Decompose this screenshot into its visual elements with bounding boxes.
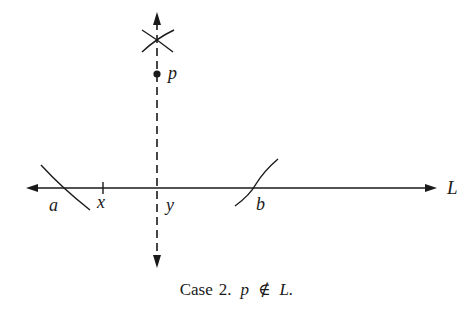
label-a: a (49, 196, 58, 214)
perpendicular-dashed-line (153, 12, 161, 268)
caption-case-word: Case (180, 280, 213, 299)
label-x: x (97, 193, 105, 211)
label-y: y (166, 196, 174, 214)
point-p (153, 70, 160, 77)
arc-intersection-mark (142, 30, 174, 52)
caption-case-number: 2. (219, 280, 232, 299)
arrow-up-icon (153, 12, 161, 25)
caption-line: L. (280, 280, 294, 299)
arrow-left-icon (26, 184, 38, 192)
figure-caption: Case2.p∉L. (0, 279, 473, 300)
construction-diagram: p a x y b L Case2.p∉L. (0, 0, 473, 312)
label-b: b (256, 195, 265, 213)
caption-point: p (240, 280, 249, 299)
arrow-down-icon (153, 255, 161, 268)
label-p: p (168, 64, 177, 82)
line-L (26, 184, 437, 192)
arrow-right-icon (425, 184, 437, 192)
caption-not-element-symbol: ∉ (258, 280, 271, 299)
label-L: L (447, 178, 458, 197)
